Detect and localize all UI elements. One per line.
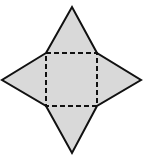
triangle-face-top [46,7,97,53]
triangle-face-left [2,53,46,106]
triangle-face-right [97,53,141,106]
square-base-face [46,53,97,106]
triangle-face-bottom [46,106,97,153]
pyramid-net-diagram [0,0,148,167]
